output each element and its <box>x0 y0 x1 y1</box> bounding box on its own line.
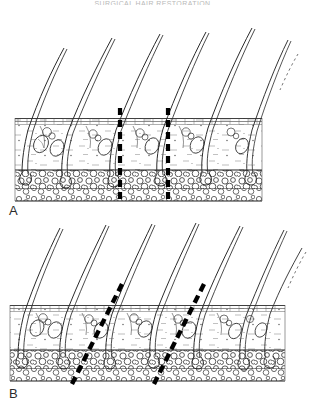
panel-letter-a: A <box>9 204 18 217</box>
scalp-slab-a <box>15 118 262 201</box>
running-head: SURGICAL HAIR RESTORATION <box>70 0 235 5</box>
panel-letter-b: B <box>9 387 18 400</box>
figure-panel-b: B <box>0 222 312 401</box>
scalp-cross-section-oblique <box>0 222 312 401</box>
figure-page: SURGICAL HAIR RESTORATION <box>0 0 312 401</box>
figure-panel-a: A <box>0 8 312 220</box>
scalp-cross-section-vertical <box>0 8 312 220</box>
